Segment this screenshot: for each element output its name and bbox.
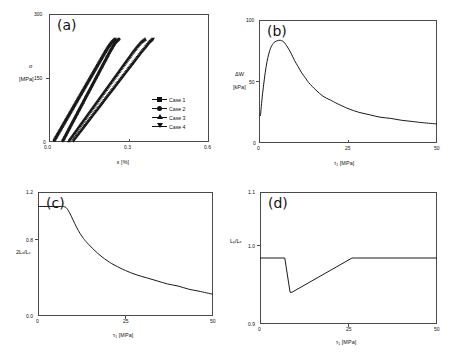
panel-a-data-curves [0, 0, 227, 180]
panel-d-data-curve [227, 180, 454, 355]
legend-label-case-2: Case 2 [169, 106, 185, 112]
panel-b-data-curve [227, 0, 454, 180]
legend-item-case-2: Case 2 [152, 104, 185, 113]
square-marker-icon [152, 95, 167, 104]
figure-canvas: (a) σ [MPa] 300 150 0 0.0 0.3 0.6 ε [%] … [0, 0, 454, 355]
triangle-down-marker-icon [152, 122, 167, 131]
panel-b: (b) ΔW [kPa] 100 50 0 0 25 50 τ₁ [MPa] [227, 0, 454, 180]
legend-label-case-3: Case 3 [169, 115, 185, 121]
panel-a-legend: Case 1 Case 2 Case 3 Case 4 [152, 95, 185, 131]
legend-item-case-3: Case 3 [152, 113, 185, 122]
circle-marker-icon [152, 104, 167, 113]
panel-a: (a) σ [MPa] 300 150 0 0.0 0.3 0.6 ε [%] … [0, 0, 227, 180]
legend-item-case-4: Case 4 [152, 122, 185, 131]
panel-d: (d) Lᵧ/Lₓ 1.1 1.0 0.9 0 25 50 τ₁ [MPa] [227, 180, 454, 355]
legend-label-case-1: Case 1 [169, 97, 185, 103]
panel-c: (c) 2Lₓ/Lₛ 1.2 0.8 0.0 0 25 50 τ₁ [MPa] [0, 180, 227, 355]
panel-c-data-curve [0, 180, 227, 355]
legend-label-case-4: Case 4 [169, 124, 185, 130]
triangle-up-marker-icon [152, 113, 167, 122]
legend-item-case-1: Case 1 [152, 95, 185, 104]
